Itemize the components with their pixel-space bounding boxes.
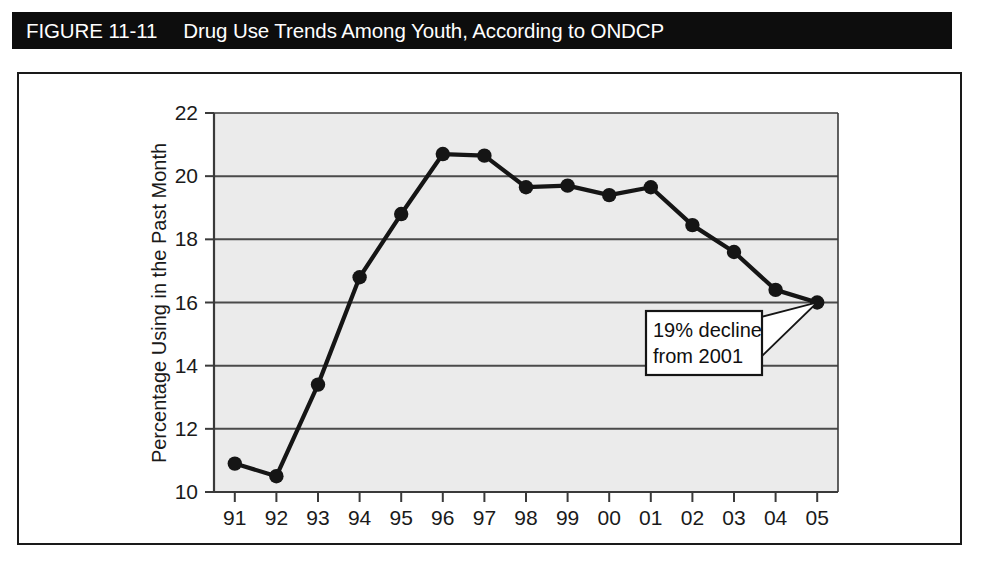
figure-title-text: Drug Use Trends Among Youth, According t…: [183, 19, 664, 42]
figure-title-banner-inner: FIGURE 11-11Drug Use Trends Among Youth,…: [26, 19, 664, 43]
figure-title-banner: FIGURE 11-11Drug Use Trends Among Youth,…: [12, 12, 952, 49]
figure-number-label: FIGURE 11-11: [26, 19, 157, 42]
figure-frame: [17, 72, 962, 545]
